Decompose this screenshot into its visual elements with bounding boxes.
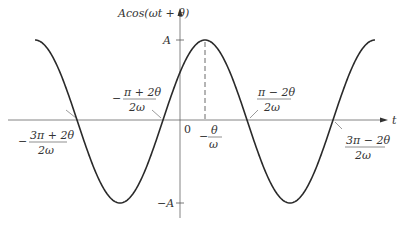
t-axis-arrow-icon [380,118,388,123]
svg-text:ω: ω [209,138,218,151]
leader-line [335,122,342,129]
cosine-curve [35,40,375,203]
svg-text:−: − [199,130,208,143]
svg-text:π − 2θ: π − 2θ [257,86,295,99]
cosine-diagram: Acos(ωt + θ) t 0 A −A − θ ω − 3π + 2θ 2ω… [0,0,403,226]
svg-text:θ: θ [211,124,218,137]
svg-text:3π − 2θ: 3π − 2θ [346,134,390,147]
svg-text:2ω: 2ω [263,101,280,114]
y-axis-label: Acos(ωt + θ) [117,7,189,20]
crossing-label-4: 3π − 2θ 2ω [345,134,390,162]
peak-label: − θ ω [199,124,222,151]
leader-line [152,110,161,118]
amplitude-pos-label: A [162,34,171,47]
svg-text:2ω: 2ω [128,101,145,114]
crossing-label-2: − π + 2θ 2ω [112,86,161,114]
amplitude-neg-label: −A [157,197,174,210]
svg-text:3π + 2θ: 3π + 2θ [30,129,74,142]
svg-text:2ω: 2ω [354,149,371,162]
crossing-label-3: π − 2θ 2ω [257,86,295,114]
origin-label: 0 [184,123,191,136]
svg-text:2ω: 2ω [37,144,54,157]
crossing-label-1: − 3π + 2θ 2ω [18,129,74,157]
svg-text:π + 2θ: π + 2θ [123,86,161,99]
svg-text:−: − [112,92,121,105]
leader-line [250,110,258,118]
t-axis-label: t [392,114,397,127]
svg-text:−: − [18,135,27,148]
